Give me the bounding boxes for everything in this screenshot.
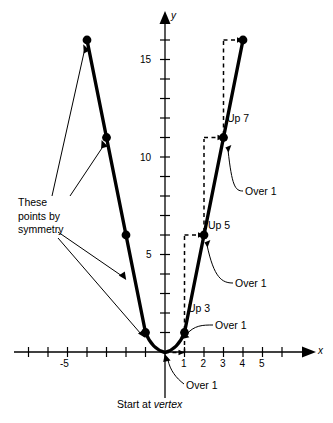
up-7-label: Up 7 — [227, 112, 249, 126]
x-tick-label-1: 1 — [181, 358, 187, 370]
x-tick-label-3: 3 — [220, 358, 226, 370]
over-1-label-top: Over 1 — [245, 185, 277, 199]
y-tick-label-15: 15 — [140, 54, 151, 66]
symmetry-note-line-2: points by — [18, 210, 60, 224]
parabola-figure: x y -5 1 2 3 4 5 5 10 15 These points by… — [0, 0, 333, 423]
data-point — [102, 133, 111, 142]
step-arrow-over-icon — [179, 350, 185, 356]
data-point — [122, 231, 131, 240]
start-at-vertex-prefix: Start at — [117, 398, 154, 410]
over-1-label-low: Over 1 — [215, 319, 247, 333]
axes-group — [14, 11, 316, 398]
leader-to-point-m3 — [70, 145, 104, 196]
up-3-label: Up 3 — [188, 302, 210, 316]
over-1-label-mid: Over 1 — [235, 277, 267, 291]
leader-over1-mid — [207, 245, 233, 283]
leader-over1-top — [228, 150, 243, 191]
leader-arrow-icon — [204, 240, 210, 248]
x-tick-label-4: 4 — [240, 358, 246, 370]
x-tick-label-5: 5 — [259, 358, 265, 370]
y-axis-arrow-icon — [160, 11, 171, 24]
x-tick-label-2: 2 — [201, 358, 207, 370]
start-at-vertex-caption: Start at vertex — [117, 398, 182, 412]
start-at-vertex-emphasis: vertex — [154, 398, 183, 410]
leader-over1-low — [186, 325, 213, 335]
over-1-label-bottom: Over 1 — [186, 379, 218, 393]
y-tick-label-5: 5 — [146, 249, 152, 261]
y-axis-label: y — [171, 10, 176, 22]
leader-to-point-m4 — [52, 48, 85, 196]
symmetry-note-line-1: These — [18, 196, 47, 210]
leader-to-point-m2 — [58, 232, 122, 276]
leader-arrow-icon — [163, 354, 170, 362]
y-tick-label-10: 10 — [140, 152, 151, 164]
x-axis-label: x — [318, 345, 323, 357]
x-axis-arrow-icon — [302, 347, 316, 358]
x-tick-label-neg5: -5 — [60, 358, 69, 370]
leader-arrow-icon — [119, 272, 126, 281]
leader-arrow-icon — [225, 145, 231, 153]
up-5-label: Up 5 — [208, 219, 230, 233]
data-point — [83, 36, 92, 45]
symmetry-note-line-3: symmetry — [18, 223, 64, 237]
